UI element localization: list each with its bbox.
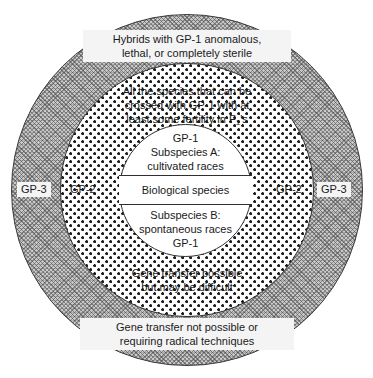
gp3-top-caption-line2: lethal, or completely sterile	[88, 46, 286, 60]
gp2-bottom-caption-line1: Gene transfer possible	[103, 266, 271, 280]
gp3-top-caption: Hybrids with GP-1 anomalous, lethal, or …	[83, 30, 291, 62]
gp3-bottom-caption-line1: Gene transfer not possible or	[85, 320, 289, 334]
gp2-top-caption-line3: least some fertility in F1's	[96, 112, 278, 128]
gp3-label-right: GP-3	[317, 182, 351, 197]
gp3-bottom-caption: Gene transfer not possible or requiring …	[80, 318, 294, 350]
gp1-core-top-line3: cultivated races	[121, 159, 250, 173]
gene-pool-diagram: Hybrids with GP-1 anomalous, lethal, or …	[0, 0, 373, 378]
gp2-top-caption-line1: All the species that can be	[96, 84, 278, 98]
gp2-top-caption-line3-a: least some fertility in F	[126, 113, 235, 125]
gp2-label-right: GP-2	[272, 182, 306, 197]
biological-species-label: Biological species	[142, 185, 229, 196]
gp1-core-bottom-line1: Subspecies B:	[115, 208, 256, 222]
gp1-core-top-line2: Subspecies A:	[121, 145, 250, 159]
gp2-label-left: GP-2	[66, 182, 100, 197]
gp2-top-caption: All the species that can be crossed with…	[96, 84, 278, 128]
gp1-core-top-line1: GP-1	[121, 131, 250, 145]
gp2-top-caption-line3-b: 's	[240, 113, 248, 125]
gp2-bottom-caption-line2: but may be difficult	[103, 280, 271, 294]
gp2-top-caption-line2: crossed with GP-1 with at	[96, 98, 278, 112]
biological-species-band: Biological species	[119, 175, 252, 205]
gp3-top-caption-line1: Hybrids with GP-1 anomalous,	[88, 32, 286, 46]
gp3-label-left: GP-3	[17, 182, 51, 197]
gp3-bottom-caption-line2: requiring radical techniques	[85, 334, 289, 348]
gp1-core-bottom-text: Subspecies B: spontaneous races GP-1	[115, 208, 256, 250]
gp1-core-bottom-line2: spontaneous races	[115, 222, 256, 236]
gp1-core-top-text: GP-1 Subspecies A: cultivated races	[121, 131, 250, 173]
gp1-core-bottom-line3: GP-1	[115, 236, 256, 250]
gp2-bottom-caption: Gene transfer possible but may be diffic…	[103, 266, 271, 294]
